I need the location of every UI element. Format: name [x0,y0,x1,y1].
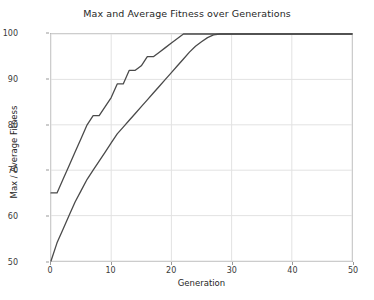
x-axis-label: Generation [50,278,353,288]
x-tick-mark [353,262,354,265]
y-tick-mark [46,78,49,79]
chart-figure: Max and Average Fitness over Generations… [0,0,374,300]
y-tick-mark [46,33,49,34]
y-tick-mark [46,170,49,171]
x-tick-label: 40 [272,266,312,275]
x-tick-mark [111,262,112,265]
x-tick-label: 20 [151,266,191,275]
x-tick-label: 0 [30,266,70,275]
y-tick-label: 100 [0,29,18,38]
y-tick-label: 80 [0,120,18,129]
y-tick-label: 60 [0,212,18,221]
x-tick-mark [50,262,51,265]
x-tick-label: 50 [333,266,373,275]
y-tick-label: 90 [0,74,18,83]
x-tick-mark [171,262,172,265]
y-tick-mark [46,262,49,263]
x-tick-mark [292,262,293,265]
y-tick-mark [46,216,49,217]
plot-area [50,33,353,262]
y-axis-label: Max / Average Fitness [9,72,19,232]
series-line-1 [51,34,352,261]
y-tick-label: 50 [0,258,18,267]
y-tick-label: 70 [0,166,18,175]
x-tick-label: 10 [91,266,131,275]
y-tick-mark [46,124,49,125]
x-tick-mark [232,262,233,265]
x-tick-label: 30 [212,266,252,275]
data-series-layer [51,34,352,261]
chart-title: Max and Average Fitness over Generations [0,8,374,19]
series-line-0 [51,34,352,193]
